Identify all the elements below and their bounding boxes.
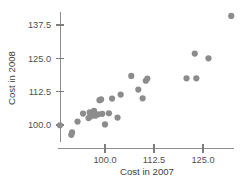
y-tick-label: 125.0 bbox=[28, 54, 51, 64]
x-axis-tick-labels: 100.0112.5125.0 bbox=[94, 155, 215, 165]
data-point bbox=[205, 55, 211, 61]
x-tick-label: 100.0 bbox=[94, 155, 117, 165]
data-point bbox=[99, 111, 105, 117]
y-axis-tick-labels: 100.0112.5125.0137.5 bbox=[28, 20, 51, 130]
data-points-group bbox=[57, 13, 235, 138]
y-axis-title: Cost in 2008 bbox=[6, 51, 17, 105]
data-point bbox=[183, 75, 189, 81]
data-point bbox=[228, 13, 234, 19]
data-point bbox=[57, 122, 63, 128]
x-axis-group: 100.0112.5125.0 Cost in 2007 bbox=[58, 144, 234, 177]
data-point bbox=[128, 73, 134, 79]
data-point bbox=[102, 121, 108, 127]
data-point bbox=[140, 95, 146, 101]
x-tick-label: 125.0 bbox=[192, 155, 215, 165]
y-tick-label: 112.5 bbox=[29, 87, 51, 97]
data-point bbox=[106, 110, 112, 116]
data-point bbox=[98, 96, 104, 102]
data-point bbox=[109, 96, 115, 102]
data-point bbox=[114, 114, 120, 120]
data-point bbox=[118, 92, 124, 98]
data-point bbox=[74, 118, 80, 124]
data-point bbox=[144, 76, 150, 82]
x-axis-title: Cost in 2007 bbox=[120, 166, 174, 177]
x-tick-label: 112.5 bbox=[143, 155, 165, 165]
data-point bbox=[69, 129, 75, 135]
y-tick-label: 100.0 bbox=[28, 120, 51, 130]
data-point bbox=[193, 75, 199, 81]
scatter-chart-figure: 100.0112.5125.0137.5 Cost in 2008 100.01… bbox=[0, 0, 241, 181]
data-point bbox=[135, 86, 141, 92]
data-point bbox=[80, 110, 86, 116]
y-axis-group: 100.0112.5125.0137.5 Cost in 2008 bbox=[6, 12, 64, 142]
data-point bbox=[192, 50, 198, 56]
scatter-plot-canvas: 100.0112.5125.0137.5 Cost in 2008 100.01… bbox=[0, 0, 241, 181]
y-tick-label: 137.5 bbox=[28, 20, 51, 30]
